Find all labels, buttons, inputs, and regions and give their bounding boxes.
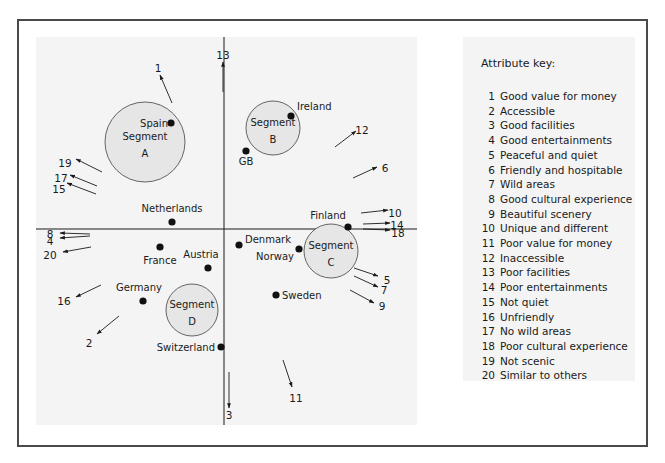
- country-label: Netherlands: [142, 203, 203, 214]
- attribute-vector: 6: [353, 162, 389, 178]
- attribute-key-number: 20: [477, 368, 495, 383]
- country-point: Austria: [183, 249, 218, 272]
- attribute-key-item: 10Unique and different: [477, 221, 632, 236]
- point-dot-icon: [167, 119, 174, 126]
- arrow-icon: [354, 276, 378, 287]
- attribute-number: 9: [379, 300, 386, 312]
- arrow-icon: [350, 290, 374, 303]
- attribute-key-number: 11: [477, 236, 495, 251]
- attribute-key-item: 18Poor cultural experience: [477, 339, 632, 354]
- segment-label: Segment: [170, 299, 215, 310]
- point-dot-icon: [156, 243, 163, 250]
- country-label: Norway: [256, 251, 294, 262]
- arrow-icon: [76, 285, 101, 297]
- point-dot-icon: [242, 147, 249, 154]
- attribute-vector: 19: [58, 157, 102, 172]
- country-point: Denmark: [235, 234, 291, 249]
- country-label: Denmark: [245, 234, 291, 245]
- attribute-key-label: Similar to others: [500, 368, 587, 383]
- attribute-key-number: 12: [477, 251, 495, 266]
- segment-label: Segment: [123, 131, 168, 142]
- attribute-key-item: 3Good facilities: [477, 118, 632, 133]
- attribute-key-label: Not quiet: [500, 295, 549, 310]
- country-point: Norway: [256, 245, 303, 262]
- attribute-key-label: No wild areas: [500, 324, 571, 339]
- attribute-key-label: Good entertainments: [500, 133, 612, 148]
- attribute-key-item: 20Similar to others: [477, 368, 632, 383]
- arrow-icon: [97, 316, 119, 334]
- attribute-key-number: 15: [477, 295, 495, 310]
- attribute-key-item: 15Not quiet: [477, 295, 632, 310]
- arrow-icon: [160, 75, 172, 103]
- attribute-key-item: 17No wild areas: [477, 324, 632, 339]
- segment-letter: B: [270, 134, 277, 145]
- segment-circle: SegmentA: [105, 102, 185, 182]
- attribute-key-label: Poor facilities: [500, 265, 570, 280]
- attribute-key-item: 13Poor facilities: [477, 265, 632, 280]
- attribute-number: 11: [289, 392, 302, 404]
- attribute-number: 17: [54, 172, 67, 184]
- attribute-key-item: 19Not scenic: [477, 354, 632, 369]
- country-label: Switzerland: [157, 342, 215, 353]
- country-label: Germany: [116, 282, 162, 293]
- country-point: GB: [239, 147, 254, 167]
- axes: [36, 37, 417, 425]
- attribute-key-number: 7: [477, 177, 495, 192]
- attribute-number: 8: [47, 228, 54, 240]
- attribute-key-title: Attribute key:: [481, 57, 555, 70]
- country-label: Sweden: [282, 290, 322, 301]
- country-label: GB: [239, 156, 254, 167]
- attribute-key-item: 8Good cultural experience: [477, 192, 632, 207]
- arrow-icon: [283, 360, 292, 387]
- attribute-key-number: 10: [477, 221, 495, 236]
- attribute-key-number: 19: [477, 354, 495, 369]
- attribute-number: 2: [86, 337, 93, 349]
- attribute-key-number: 5: [477, 148, 495, 163]
- attribute-key-label: Good facilities: [500, 118, 575, 133]
- attribute-vector: 10: [361, 207, 402, 219]
- arrow-icon: [76, 159, 102, 172]
- attribute-vector: 17: [54, 172, 97, 186]
- country-label: France: [143, 255, 176, 266]
- attribute-key-label: Friendly and hospitable: [500, 163, 623, 178]
- arrow-icon: [353, 167, 377, 178]
- attribute-number: 18: [391, 227, 404, 239]
- country-point: Germany: [116, 282, 162, 305]
- attribute-key-number: 8: [477, 192, 495, 207]
- country-point: Sweden: [272, 290, 321, 301]
- attribute-key-number: 16: [477, 310, 495, 325]
- attribute-vector: 3: [226, 372, 233, 421]
- attribute-vector: 12: [335, 124, 369, 147]
- attribute-number: 3: [226, 409, 233, 421]
- segment-circle: SegmentB: [246, 101, 300, 155]
- attribute-vector: 7: [354, 276, 387, 296]
- country-point: France: [143, 243, 176, 266]
- attribute-number: 13: [216, 49, 229, 61]
- attribute-key-number: 2: [477, 104, 495, 119]
- segment-letter: D: [188, 316, 196, 327]
- attribute-key-number: 17: [477, 324, 495, 339]
- arrow-icon: [70, 175, 97, 186]
- attribute-key-item: 5Peaceful and quiet: [477, 148, 632, 163]
- attribute-key-number: 9: [477, 207, 495, 222]
- attribute-key-label: Beautiful scenery: [500, 207, 592, 222]
- segment-circle: SegmentC: [304, 224, 358, 278]
- attribute-key-number: 13: [477, 265, 495, 280]
- attribute-key-item: 7Wild areas: [477, 177, 632, 192]
- attribute-key-label: Accessible: [500, 104, 555, 119]
- attribute-vector: 20: [43, 247, 91, 261]
- attribute-vector: 1: [155, 62, 172, 103]
- attribute-key-label: Unfriendly: [500, 310, 554, 325]
- attribute-key-panel: Attribute key: 1Good value for money2Acc…: [463, 37, 635, 381]
- attribute-key-label: Poor cultural experience: [500, 339, 628, 354]
- country-label: Austria: [183, 249, 218, 260]
- attribute-key-label: Unique and different: [500, 221, 608, 236]
- point-dot-icon: [168, 218, 175, 225]
- attribute-number: 16: [57, 295, 71, 307]
- country-label: Spain: [140, 118, 168, 129]
- attribute-key-item: 12Inaccessible: [477, 251, 632, 266]
- attribute-key-item: 2Accessible: [477, 104, 632, 119]
- attribute-key-label: Peaceful and quiet: [500, 148, 598, 163]
- attribute-key-number: 14: [477, 280, 495, 295]
- point-dot-icon: [295, 245, 302, 252]
